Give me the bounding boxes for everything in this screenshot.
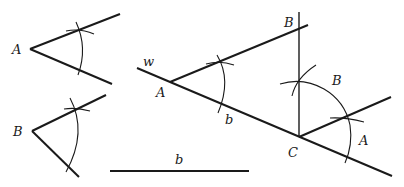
ray-from-c (299, 97, 391, 137)
angle-b-ray-lower (32, 131, 79, 177)
label-vertex-b-top: B (283, 15, 294, 30)
label-angle-b-mark: B (331, 73, 342, 88)
label-vertex-c: C (288, 145, 298, 160)
construction-diagram: A B b w A b B B C A (0, 0, 404, 187)
angle-b-ray-upper (32, 95, 106, 131)
label-line-w: w (143, 54, 154, 69)
ray-from-a (170, 25, 308, 82)
cross-arc-at-c-upper (292, 65, 316, 96)
label-side-b: b (225, 112, 233, 127)
label-angle-a-mark: A (358, 133, 368, 148)
label-vertex-a: A (155, 85, 165, 100)
given-angle-a (30, 14, 120, 84)
angle-a-ray-lower (30, 49, 112, 84)
angle-a-ray-upper (30, 14, 120, 49)
label-given-angle-b: B (12, 124, 23, 139)
given-angle-b (32, 95, 106, 177)
label-given-angle-a: A (11, 42, 21, 57)
label-segment-b: b (175, 152, 183, 167)
